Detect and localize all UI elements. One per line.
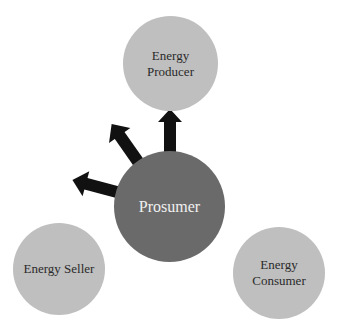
prosumer-label: Prosumer: [139, 197, 200, 216]
seller-label: Energy Seller: [24, 261, 95, 277]
producer-label-line1: Energy: [147, 48, 194, 64]
prosumer-node: Prosumer: [114, 151, 225, 262]
energy-producer-node: Energy Producer: [123, 16, 218, 111]
arrow-to-producer: [158, 109, 182, 152]
producer-label-line2: Producer: [147, 64, 194, 80]
consumer-label-line1: Energy: [252, 257, 305, 273]
consumer-label-line2: Consumer: [252, 273, 305, 289]
energy-consumer-node: Energy Consumer: [233, 227, 325, 319]
energy-seller-node: Energy Seller: [13, 223, 105, 315]
